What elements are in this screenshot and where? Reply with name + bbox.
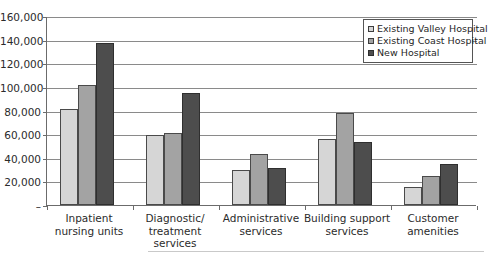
bar-group (146, 16, 200, 205)
x-axis-label-line: Building support (299, 212, 395, 225)
x-tick-mark (305, 206, 306, 210)
legend-swatch-coast-icon (368, 38, 374, 44)
x-axis-label: Building supportservices (299, 212, 395, 237)
bar-group (232, 16, 286, 205)
y-tick-label: 40,000 (0, 154, 41, 164)
bar (60, 109, 78, 205)
legend-item[interactable]: Existing Valley Hospital (368, 23, 468, 35)
y-tick-label: 80,000 (0, 107, 41, 117)
legend-item[interactable]: New Hospital (368, 47, 468, 59)
x-axis-label-line: Customer (385, 212, 481, 225)
y-tick-mark (43, 41, 47, 42)
bar (354, 142, 372, 205)
x-axis-label: Customeramenities (385, 212, 481, 237)
x-axis-label-line: treatment (127, 225, 223, 238)
bar (422, 176, 440, 205)
y-tick-mark (43, 64, 47, 65)
x-axis-label: Inpatientnursing units (41, 212, 137, 237)
bar (164, 133, 182, 205)
legend-item-label: Existing Coast Hospital (377, 36, 486, 46)
x-axis-label: Diagnostic/treatmentservices (127, 212, 223, 250)
bottom-divider (148, 251, 484, 252)
bar (232, 170, 250, 205)
bar (268, 168, 286, 205)
y-tick-label: 20,000 (0, 177, 41, 187)
bar (336, 113, 354, 205)
y-tick-label: 60,000 (0, 130, 41, 140)
y-tick-label: 120,000 (0, 59, 41, 69)
bar (78, 85, 96, 205)
chart-legend: Existing Valley HospitalExisting Coast H… (363, 19, 473, 63)
bar (404, 187, 422, 205)
legend-item-label: Existing Valley Hospital (377, 24, 488, 34)
y-tick-mark (43, 135, 47, 136)
bar (318, 139, 336, 205)
legend-swatch-new-icon (368, 50, 374, 56)
x-axis-label-line: Inpatient (41, 212, 137, 225)
x-axis-label-line: services (299, 225, 395, 238)
x-tick-mark (47, 206, 48, 210)
bar (182, 93, 200, 205)
y-tick-mark (43, 112, 47, 113)
bar (96, 43, 114, 205)
legend-swatch-valley-icon (368, 26, 374, 32)
x-tick-mark (391, 206, 392, 210)
legend-item[interactable]: Existing Coast Hospital (368, 35, 468, 47)
y-tick-mark (43, 159, 47, 160)
x-axis-label-line: Administrative (213, 212, 309, 225)
y-tick-label: – (0, 201, 41, 211)
y-tick-label: 160,000 (0, 12, 41, 22)
y-tick-mark (43, 88, 47, 89)
y-tick-label: 140,000 (0, 36, 41, 46)
y-tick-mark (43, 182, 47, 183)
x-axis-label-line: services (127, 237, 223, 250)
x-axis-label-line: services (213, 225, 309, 238)
legend-item-label: New Hospital (377, 48, 440, 58)
y-tick-mark (43, 17, 47, 18)
x-axis-label-line: amenities (385, 225, 481, 238)
x-axis-label: Administrativeservices (213, 212, 309, 237)
x-axis-label-line: nursing units (41, 225, 137, 238)
x-axis-label-line: Diagnostic/ (127, 212, 223, 225)
x-tick-mark (133, 206, 134, 210)
x-tick-mark (477, 206, 478, 210)
y-tick-label: 100,000 (0, 83, 41, 93)
bar (146, 135, 164, 205)
bar (250, 154, 268, 205)
bar (440, 164, 458, 205)
bar-group (60, 16, 114, 205)
x-tick-mark (219, 206, 220, 210)
